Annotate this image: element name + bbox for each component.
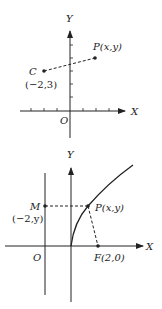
y-axis-label: Y — [67, 149, 75, 160]
x-axis-label: X — [130, 106, 139, 117]
figure-parabola: Y X O M (−2,y) P(x,y) F(2,0) — [5, 149, 154, 302]
point-p-label: P(x,y) — [94, 202, 124, 213]
point-m-dot — [43, 204, 47, 208]
y-axis-label: Y — [66, 13, 74, 24]
point-m-label: M — [29, 201, 41, 212]
point-c-dot — [42, 69, 46, 73]
point-c-coords: (−2,3) — [25, 79, 57, 90]
point-f-dot — [96, 244, 100, 248]
figure-distance: Y X O C (−2,3) P(x,y) — [20, 13, 139, 138]
point-c-label: C — [29, 66, 37, 77]
x-axis-label: X — [145, 241, 154, 252]
point-m-coords: (−2,y) — [12, 213, 43, 224]
diagram-canvas: Y X O C (−2,3) P(x,y) Y X O M (−2,y) P(x… — [0, 0, 162, 309]
origin-label: O — [33, 252, 41, 263]
origin-label: O — [60, 115, 68, 126]
point-p-dot — [86, 204, 90, 208]
point-f-label: F(2,0) — [93, 252, 125, 263]
point-p-label: P(x,y) — [92, 41, 122, 52]
point-p-dot — [93, 56, 97, 60]
